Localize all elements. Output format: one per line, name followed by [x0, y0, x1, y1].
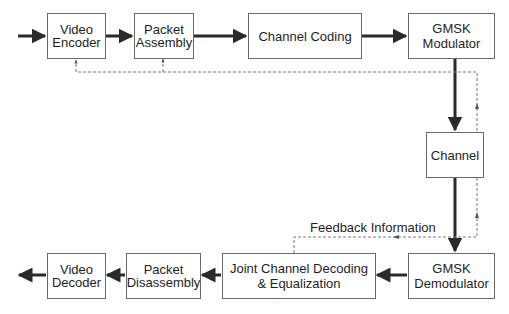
gmsk-demodulator-block: GMSKDemodulator: [408, 253, 495, 299]
gmsk-demodulator-line1: GMSK: [414, 261, 488, 276]
video-decoder-block: VideoDecoder: [47, 253, 106, 299]
video-encoder-block: VideoEncoder: [47, 13, 106, 59]
feedback-arrow-up-lower-icon: [475, 212, 479, 218]
packet-disassembly-line2: Disassembly: [127, 276, 201, 289]
packet-disassembly-block: PacketDisassembly: [126, 253, 201, 299]
feedback-arrow-up-upper-icon: [475, 103, 479, 109]
joint-decoding-block: Joint Channel Decoding& Equalization: [222, 253, 376, 299]
video-encoder-line2: Encoder: [52, 36, 100, 49]
channel-label: Channel: [431, 149, 479, 162]
gmsk-modulator-line2: Modulator: [423, 36, 481, 51]
joint-decoding-line1: Joint Channel Decoding: [230, 261, 368, 276]
feedback-arrow-left-icon: [393, 235, 399, 239]
feedback-information-label: Feedback Information: [310, 220, 436, 235]
joint-decoding-line2: & Equalization: [230, 276, 368, 291]
packet-assembly-line2: Assembly: [136, 36, 192, 49]
channel-block: Channel: [426, 132, 484, 178]
gmsk-modulator-block: GMSKModulator: [408, 13, 495, 59]
channel-coding-label: Channel Coding: [258, 30, 351, 43]
gmsk-demodulator-line2: Demodulator: [414, 276, 488, 291]
video-decoder-line2: Decoder: [52, 276, 101, 289]
gmsk-modulator-line1: GMSK: [423, 21, 481, 36]
channel-coding-block: Channel Coding: [248, 13, 362, 59]
packet-assembly-block: PacketAssembly: [134, 13, 194, 59]
